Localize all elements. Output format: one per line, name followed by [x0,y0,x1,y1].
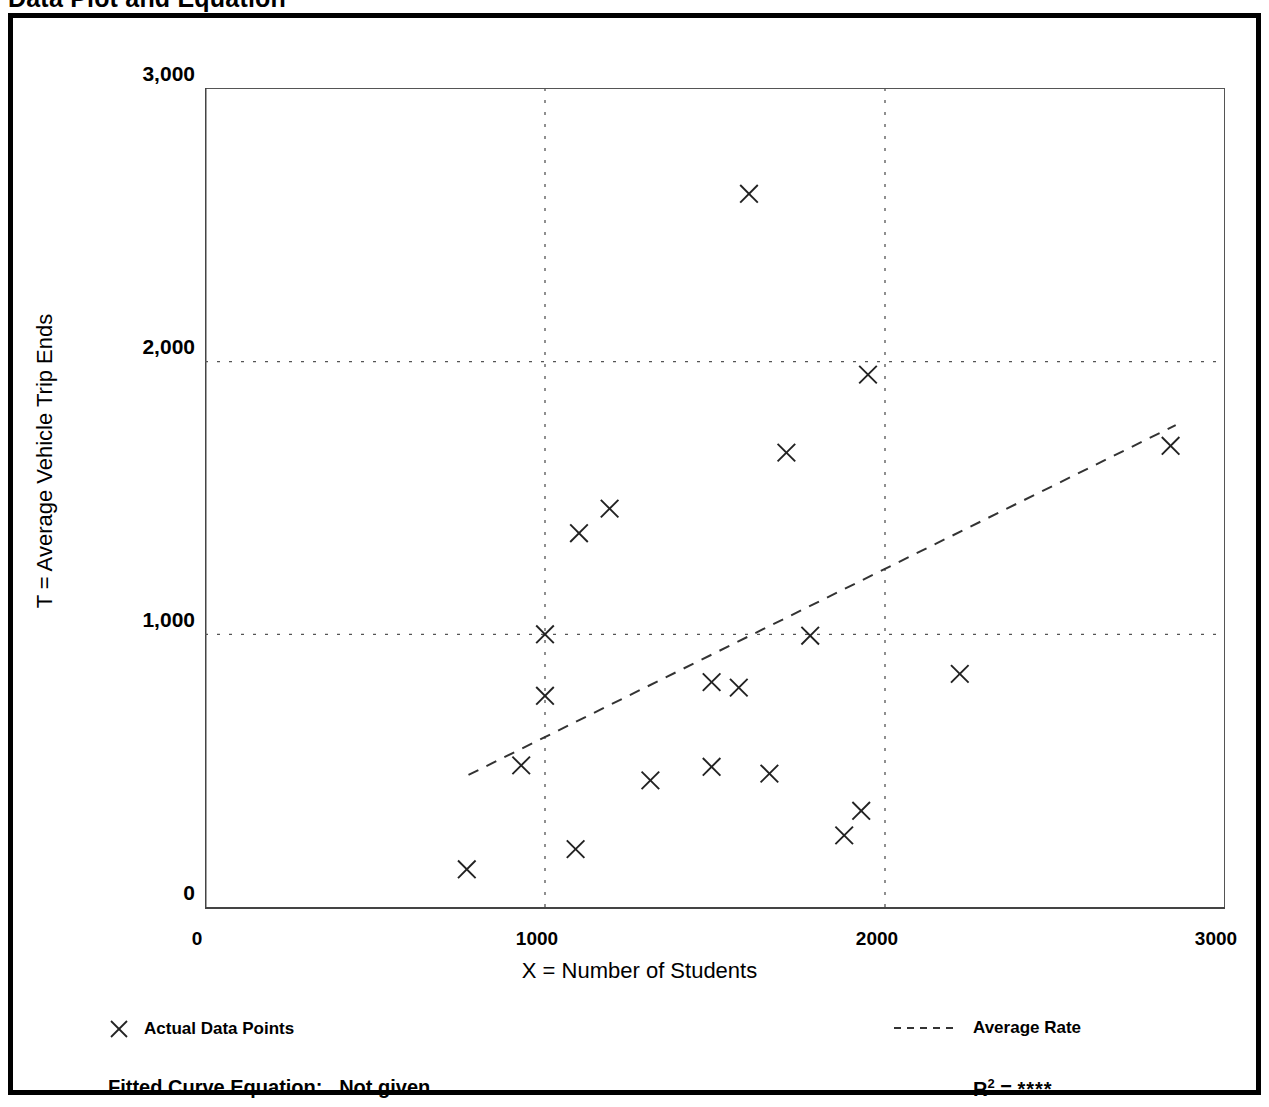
data-point [512,757,530,775]
x-tick-label-0: 0 [192,928,203,950]
fitted-curve-equation-value: Not given [339,1076,430,1098]
data-point [951,665,969,683]
data-point [740,185,758,203]
y-tick-label-3000: 3,000 [142,62,195,86]
data-point [730,679,748,697]
r-squared-stars: **** [1018,1078,1053,1100]
plot-area [205,88,1225,909]
fitted-curve-equation-label: Fitted Curve Equation: [108,1076,322,1098]
chart-legend: Actual Data Points Average Rate [13,1018,1266,1058]
r-squared-label: R [973,1078,987,1100]
data-point [703,673,721,691]
data-point [570,524,588,542]
page-title: Data Plot and Equation [8,0,286,13]
data-point [835,827,853,845]
data-point [852,802,870,820]
data-point [1162,437,1180,455]
y-tick-label-0: 0 [183,881,195,905]
data-point [761,765,779,783]
data-point [458,861,476,879]
data-point [703,758,721,776]
data-point [567,840,585,858]
x-axis-title: X = Number of Students [13,958,1266,984]
figure-footer: Fitted Curve Equation: Not given R2 = **… [13,1076,1266,1107]
legend-label-average-rate: Average Rate [973,1018,1081,1038]
scatter-plot-svg [205,88,1225,909]
data-point [859,366,877,384]
legend-item-actual-data-points: Actual Data Points [108,1018,294,1040]
data-point [601,500,619,518]
dashed-line-icon [893,1022,959,1034]
y-tick-label-1000: 1,000 [142,608,195,632]
fitted-curve-equation: Fitted Curve Equation: Not given [108,1076,430,1099]
data-point [778,444,796,462]
y-tick-label-2000: 2,000 [142,335,195,359]
y-axis-title: T = Average Vehicle Trip Ends [32,111,58,811]
legend-item-average-rate: Average Rate [893,1018,1081,1038]
legend-label-actual-data-points: Actual Data Points [144,1019,294,1039]
r-squared-equals: = [1000,1078,1012,1100]
scatter-markers [458,185,1179,878]
gridlines [205,88,1225,908]
x-tick-label-3000: 3000 [1195,928,1237,950]
x-tick-label-1000: 1000 [516,928,558,950]
x-tick-label-2000: 2000 [856,928,898,950]
data-point [642,772,660,790]
r-squared-exponent: 2 [987,1076,994,1091]
x-axis-tick-labels: 0 1000 2000 3000 [13,928,1266,958]
x-marker-icon [108,1018,130,1040]
r-squared-value: R2 = **** [973,1076,1053,1101]
figure-frame: 3,000 2,000 1,000 0 T = Average Vehicle … [8,13,1261,1095]
average-rate-trendline [469,425,1176,775]
data-point [801,627,819,645]
